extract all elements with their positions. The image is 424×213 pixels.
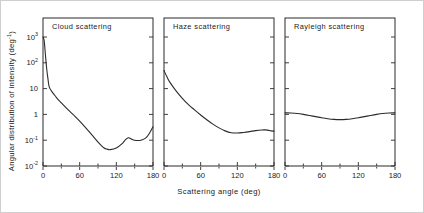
x-tick-label: 0 (283, 171, 287, 180)
data-curve (285, 113, 395, 120)
y-tick-label: 10 (30, 84, 38, 93)
y-axis-label: Angular distribution of intensity (deg-1… (6, 31, 16, 171)
x-tick-label: 0 (162, 171, 166, 180)
x-tick-label: 120 (231, 171, 244, 180)
y-tick-label: 10-1 (25, 135, 38, 145)
panel-frame (43, 18, 153, 166)
y-axis-labels: 10310210110-110-2 (25, 31, 38, 170)
x-tick-label: 60 (75, 171, 83, 180)
panel-title: Haze scattering (173, 22, 230, 31)
x-tick-label: 180 (268, 171, 281, 180)
x-tick-label: 180 (389, 171, 402, 180)
panel-3: 060120180Rayleigh scattering (283, 18, 401, 180)
x-tick-label: 60 (317, 171, 325, 180)
y-tick-label: 10-2 (25, 160, 38, 170)
panel-2: 060120180Haze scattering (162, 18, 280, 180)
y-tick-label: 1 (34, 110, 38, 119)
panel-frame (285, 18, 395, 166)
plot-canvas: 060120180Cloud scattering060120180Haze s… (1, 1, 424, 213)
panel-title: Cloud scattering (52, 22, 112, 31)
panel-1: 060120180Cloud scattering (41, 18, 159, 180)
data-curve (43, 37, 153, 150)
y-tick-label: 102 (27, 57, 38, 67)
x-tick-label: 120 (352, 171, 365, 180)
x-tick-label: 180 (147, 171, 160, 180)
x-axis-label: Scattering angle (deg) (177, 187, 261, 196)
data-curve (164, 71, 274, 133)
x-tick-label: 0 (41, 171, 45, 180)
x-tick-label: 120 (110, 171, 123, 180)
scattering-figure: 060120180Cloud scattering060120180Haze s… (0, 0, 424, 213)
panel-frame (164, 18, 274, 166)
panel-title: Rayleigh scattering (294, 22, 364, 31)
x-tick-label: 60 (196, 171, 204, 180)
y-tick-label: 103 (27, 31, 38, 41)
